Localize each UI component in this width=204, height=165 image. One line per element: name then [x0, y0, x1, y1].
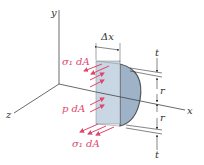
- radius-bottom-label: r: [160, 112, 166, 123]
- z-axis: [14, 84, 59, 113]
- top-stress-label: σ₁ dA: [62, 56, 90, 67]
- thickness-bottom-label: t: [155, 149, 160, 160]
- delta-x-dimension: [96, 43, 120, 62]
- y-axis-label: y: [50, 7, 57, 18]
- pressure-label: p dA: [62, 103, 85, 114]
- radius-top-label: r: [160, 85, 166, 96]
- curved-face: [120, 64, 141, 126]
- free-body-diagram: y z x Δx t r r t σ₁ dA p dA σ₁ dA: [0, 0, 204, 165]
- delta-x-label: Δx: [100, 31, 114, 42]
- thickness-top-label: t: [155, 47, 160, 58]
- x-axis-label: x: [187, 105, 193, 116]
- x-axis-back: [59, 84, 96, 92]
- bottom-stress-label: σ₁ dA: [72, 138, 100, 149]
- z-axis-label: z: [5, 109, 12, 120]
- stress-arrow: [96, 127, 114, 135]
